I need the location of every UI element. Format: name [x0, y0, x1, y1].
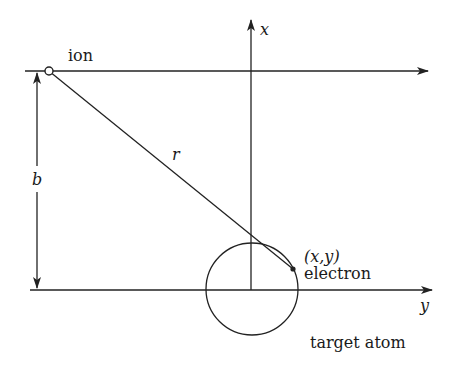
ion-marker-icon — [45, 67, 53, 75]
ion-atom-collision-diagram: ion x y r b (x,y) electron target atom — [0, 0, 450, 370]
target-atom-circle — [206, 243, 298, 335]
distance-r-line — [52, 74, 293, 270]
x-axis-label: x — [260, 20, 269, 39]
y-axis-label: y — [419, 296, 430, 315]
impact-parameter-b-label: b — [32, 170, 42, 189]
electron-label: electron — [304, 264, 371, 283]
distance-r-label: r — [172, 145, 181, 164]
ion-label: ion — [68, 46, 93, 65]
target-atom-label: target atom — [310, 333, 406, 352]
electron-marker-icon — [290, 266, 295, 271]
